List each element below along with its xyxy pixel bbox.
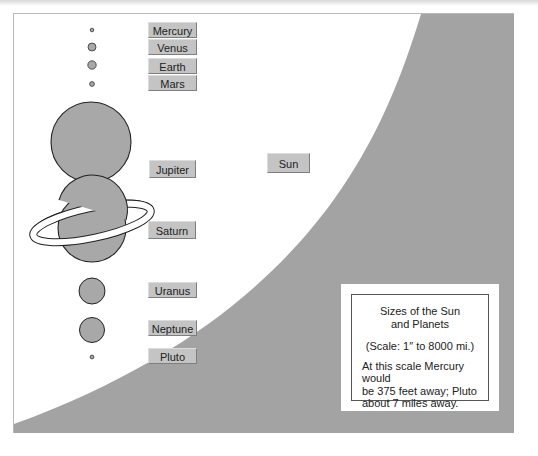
- caption-inner: Sizes of the Sun and Planets (Scale: 1″ …: [351, 294, 489, 401]
- caption-note: At this scale Mercury would be 375 feet …: [362, 360, 478, 410]
- label-venus: Venus: [148, 39, 197, 55]
- saturn-planet: [30, 175, 154, 262]
- venus-planet: [88, 43, 96, 51]
- label-saturn: Saturn: [148, 221, 196, 239]
- caption-box: Sizes of the Sun and Planets (Scale: 1″ …: [341, 284, 499, 411]
- label-mercury: Mercury: [148, 22, 197, 38]
- mercury-planet: [90, 28, 94, 32]
- mars-planet: [90, 82, 95, 87]
- label-neptune: Neptune: [148, 320, 197, 336]
- earth-planet: [88, 61, 96, 69]
- page-top-strip: [0, 0, 538, 6]
- caption-note-line2: be 375 feet away; Pluto: [362, 385, 478, 398]
- label-jupiter: Jupiter: [149, 160, 196, 178]
- caption-note-line1: At this scale Mercury would: [362, 360, 478, 385]
- label-mars: Mars: [148, 75, 197, 91]
- uranus-planet: [79, 278, 105, 304]
- caption-title-line1: Sizes of the Sun: [362, 305, 478, 318]
- label-pluto: Pluto: [148, 348, 197, 364]
- caption-title-line2: and Planets: [362, 318, 478, 331]
- pluto-planet: [90, 355, 94, 359]
- label-sun: Sun: [267, 153, 310, 173]
- neptune-planet: [80, 318, 105, 343]
- caption-scale: (Scale: 1″ to 8000 mi.): [362, 340, 478, 353]
- caption-note-line3: about 7 miles away.: [362, 397, 478, 410]
- label-earth: Earth: [148, 58, 197, 74]
- label-uranus: Uranus: [148, 282, 197, 298]
- caption-title: Sizes of the Sun and Planets: [362, 305, 478, 330]
- jupiter-planet: [51, 102, 131, 182]
- diagram-frame: Mercury Venus Earth Mars Jupiter Sun Sat…: [13, 13, 514, 433]
